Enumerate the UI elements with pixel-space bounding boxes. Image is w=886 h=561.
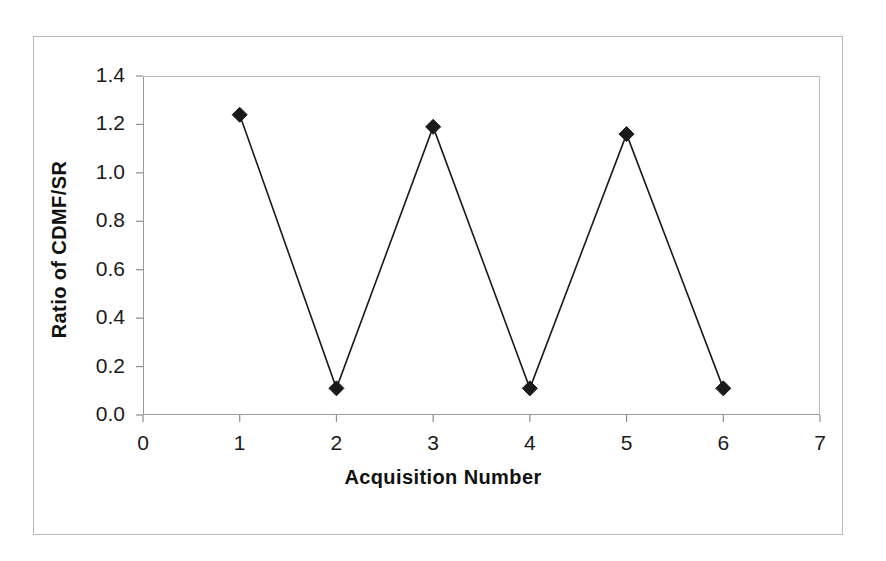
x-tick-label: 6 — [703, 431, 743, 455]
x-tick-label: 3 — [413, 431, 453, 455]
y-axis-title: Ratio of CDMF/SR — [48, 100, 71, 400]
x-tick-label: 5 — [607, 431, 647, 455]
y-tick-label: 0.4 — [65, 305, 125, 329]
data-point-marker — [232, 107, 247, 122]
data-point-marker — [716, 381, 731, 396]
data-point-marker — [619, 127, 634, 142]
data-point-marker — [329, 381, 344, 396]
y-tick-label: 1.4 — [65, 63, 125, 87]
y-tick-label: 0.6 — [65, 257, 125, 281]
x-tick-label: 2 — [316, 431, 356, 455]
x-tick-label: 7 — [800, 431, 840, 455]
y-tick-label: 1.0 — [65, 160, 125, 184]
x-tick-label: 1 — [220, 431, 260, 455]
chart-figure: 0.00.20.40.60.81.01.21.4 01234567 Ratio … — [0, 0, 886, 561]
x-tick-label: 4 — [510, 431, 550, 455]
x-tick-label: 0 — [123, 431, 163, 455]
data-markers — [232, 107, 731, 396]
y-tick-label: 1.2 — [65, 111, 125, 135]
data-point-marker — [426, 119, 441, 134]
y-tick-label: 0.2 — [65, 354, 125, 378]
y-tick-label: 0.8 — [65, 208, 125, 232]
plot-wrapper: 0.00.20.40.60.81.01.21.4 01234567 Ratio … — [0, 0, 886, 561]
x-axis-title: Acquisition Number — [0, 466, 886, 489]
data-line — [240, 115, 724, 389]
data-point-marker — [522, 381, 537, 396]
y-tick-label: 0.0 — [65, 402, 125, 426]
